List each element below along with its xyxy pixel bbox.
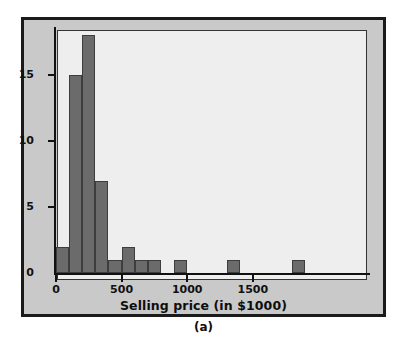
- x-axis-tick-label: 500: [92, 284, 152, 296]
- histogram-bar: [174, 260, 187, 273]
- x-axis-tick: [121, 275, 123, 282]
- histogram-bar: [292, 260, 305, 273]
- histogram-bar: [108, 260, 121, 273]
- y-axis-tick: [48, 206, 55, 208]
- histogram-bar: [135, 260, 148, 273]
- figure-panel: 051015050010001500 Selling price (in $10…: [21, 17, 386, 317]
- histogram-bar: [82, 35, 95, 273]
- x-axis-tick: [55, 275, 57, 282]
- histogram-bar: [227, 260, 240, 273]
- histogram-bar: [69, 75, 82, 273]
- histogram-bar: [56, 247, 69, 273]
- y-axis-tick-label: 10: [0, 136, 34, 146]
- x-axis-title: Selling price (in $1000): [24, 298, 383, 313]
- x-axis-tick: [252, 275, 254, 282]
- y-axis-tick: [48, 74, 55, 76]
- axes-layer: 051015050010001500: [24, 20, 383, 314]
- histogram-bar: [148, 260, 161, 273]
- histogram-bar: [95, 181, 108, 273]
- y-axis-tick: [48, 140, 55, 142]
- x-axis-tick-label: 1000: [157, 284, 217, 296]
- x-axis-line: [54, 273, 370, 275]
- panel-label: (a): [24, 320, 383, 334]
- x-axis-tick: [186, 275, 188, 282]
- x-axis-tick-label: 1500: [223, 284, 283, 296]
- y-axis-tick-label: 15: [0, 70, 34, 80]
- histogram-bar: [122, 247, 135, 273]
- y-axis-line: [54, 27, 56, 275]
- x-axis-tick-label: 0: [26, 284, 86, 296]
- y-axis-tick-label: 5: [0, 202, 34, 212]
- y-axis-tick-label: 0: [0, 268, 34, 278]
